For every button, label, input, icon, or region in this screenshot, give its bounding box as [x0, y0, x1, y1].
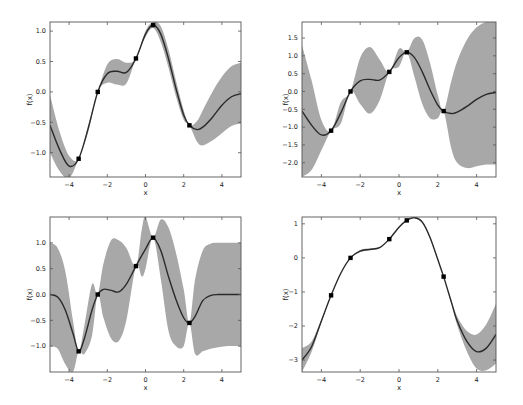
observation-point [387, 70, 391, 74]
x-tick-label: −4 [317, 376, 327, 384]
y-tick-label: 1.5 [288, 34, 298, 42]
observation-point [134, 56, 138, 60]
y-axis-label: f(x) [282, 93, 290, 105]
observation-point [441, 274, 445, 278]
y-tick-label: 1 [294, 220, 298, 228]
y-axis-label: f(x) [282, 288, 290, 300]
y-axis-label: f(x) [26, 93, 34, 105]
figure: −4−2024−1.0−0.50.00.51.0xf(x) −4−2024−2.… [0, 0, 523, 405]
y-tick-label: −0.5 [30, 317, 46, 325]
observation-point [187, 123, 191, 127]
x-tick-label: −4 [64, 181, 74, 189]
x-tick-label: 2 [182, 181, 186, 189]
observation-point [187, 321, 191, 325]
y-tick-label: 1.0 [36, 27, 46, 35]
observation-point [329, 128, 333, 132]
y-tick-label: −0.5 [282, 106, 298, 114]
observation-point [348, 89, 352, 93]
observation-point [76, 157, 80, 161]
x-axis-label: x [143, 384, 147, 392]
x-tick-label: 2 [182, 376, 186, 384]
y-tick-label: −2.0 [282, 159, 298, 167]
observation-point [96, 292, 100, 296]
subplot-top-left: −4−2024−1.0−0.50.00.51.0xf(x) [0, 0, 262, 202]
y-tick-label: −1.5 [282, 141, 298, 149]
x-axis-label: x [397, 384, 401, 392]
subplot-bottom-right: −4−2024−3−2−101xf(x) [262, 195, 523, 405]
x-tick-label: −2 [355, 181, 365, 189]
y-tick-label: 0.0 [36, 291, 46, 299]
x-tick-label: −2 [355, 376, 365, 384]
x-tick-label: 0 [143, 181, 147, 189]
y-tick-label: 1.0 [288, 52, 298, 60]
y-tick-label: −1.0 [30, 342, 46, 350]
observation-point [405, 50, 409, 54]
x-tick-label: −2 [103, 376, 113, 384]
observation-point [76, 349, 80, 353]
y-tick-label: 0 [294, 254, 298, 262]
y-tick-label: 0.0 [36, 88, 46, 96]
observation-point [151, 23, 155, 27]
y-tick-label: −1.0 [282, 123, 298, 131]
y-tick-label: 0.5 [288, 70, 298, 78]
chart-svg: −4−2024−1.0−0.50.00.51.0xf(x) [0, 0, 262, 202]
y-tick-label: 0.5 [36, 265, 46, 273]
x-tick-label: 4 [220, 376, 224, 384]
observation-point [151, 235, 155, 239]
chart-svg: −4−2024−3−2−101xf(x) [262, 195, 523, 405]
observation-point [134, 264, 138, 268]
x-tick-label: −2 [103, 181, 113, 189]
x-tick-label: 0 [143, 376, 147, 384]
observation-point [387, 237, 391, 241]
confidence-band [50, 22, 241, 179]
subplot-top-right: −4−2024−2.0−1.5−1.0−0.50.00.51.01.5xf(x) [262, 0, 523, 202]
x-tick-label: 2 [436, 181, 440, 189]
y-axis-label: f(x) [26, 288, 34, 300]
x-tick-label: −4 [64, 376, 74, 384]
y-tick-label: −0.5 [30, 119, 46, 127]
observation-point [329, 293, 333, 297]
observation-point [348, 256, 352, 260]
x-tick-label: 2 [436, 376, 440, 384]
x-tick-label: 4 [475, 181, 479, 189]
y-tick-label: 0.5 [36, 58, 46, 66]
confidence-band [302, 22, 496, 177]
observation-point [441, 109, 445, 113]
y-tick-label: −3 [288, 356, 298, 364]
x-tick-label: 4 [475, 376, 479, 384]
x-tick-label: −4 [317, 181, 327, 189]
observation-point [405, 218, 409, 222]
observation-point [96, 90, 100, 94]
chart-svg: −4−2024−1.0−0.50.00.51.0xf(x) [0, 195, 262, 405]
y-tick-label: 1.0 [36, 239, 46, 247]
subplot-bottom-left: −4−2024−1.0−0.50.00.51.0xf(x) [0, 195, 262, 405]
chart-svg: −4−2024−2.0−1.5−1.0−0.50.00.51.01.5xf(x) [262, 0, 523, 202]
y-tick-label: −1.0 [30, 149, 46, 157]
x-tick-label: 0 [397, 181, 401, 189]
x-tick-label: 0 [397, 376, 401, 384]
x-tick-label: 4 [220, 181, 224, 189]
y-tick-label: −2 [288, 322, 298, 330]
